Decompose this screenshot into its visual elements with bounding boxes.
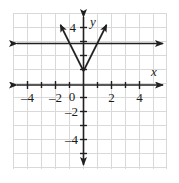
- coordinate-plane-figure: –4 –2 2 4 4 –2 –4 0 y x: [0, 0, 179, 183]
- x-tick-label-neg2: –2: [48, 90, 62, 105]
- y-tick-label-neg2: –2: [64, 104, 78, 119]
- x-tick-label-2: 2: [108, 90, 115, 105]
- y-tick-label-neg4: –4: [64, 132, 79, 147]
- y-tick-label-4: 4: [70, 20, 77, 35]
- x-axis-title: x: [150, 64, 157, 79]
- x-tick-label-neg4: –4: [20, 90, 35, 105]
- x-tick-label-4: 4: [136, 90, 143, 105]
- graph-canvas: –4 –2 2 4 4 –2 –4 0 y x: [0, 0, 179, 183]
- y-axis-title: y: [88, 14, 96, 29]
- origin-label: 0: [69, 89, 76, 104]
